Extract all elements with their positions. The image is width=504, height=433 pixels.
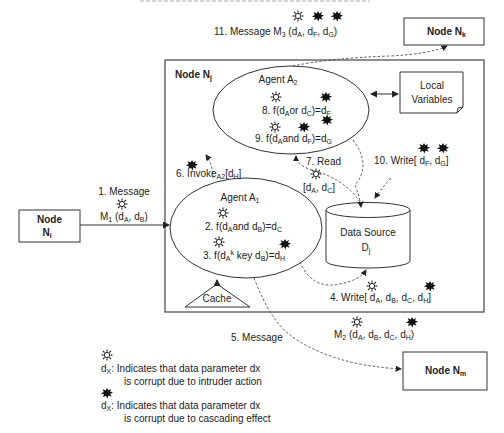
step-3-text: 3. f(dAk key dB)=dH xyxy=(203,249,285,262)
edge-5-message xyxy=(254,278,401,369)
intruder-icon xyxy=(271,92,282,103)
local-variables-label-2: Variables xyxy=(412,94,453,105)
data-source-label: Data Source xyxy=(340,227,396,238)
local-variables-box xyxy=(400,72,463,113)
cache-label: Cache xyxy=(203,293,232,304)
intruder-icon xyxy=(102,350,113,361)
edge-7-label: 7. Read xyxy=(306,156,341,167)
intruder-icon xyxy=(293,11,304,22)
edge-11-label: 11. Message M3 (dA, dF, dG) xyxy=(214,26,337,38)
edge-10-write xyxy=(353,140,363,207)
diagram-canvas: Node Nj Node Ni Node Nk Node Nm Agent A2… xyxy=(0,0,504,433)
intruder-icon xyxy=(218,208,229,219)
intruder-icon xyxy=(367,281,378,292)
cascade-icon xyxy=(437,143,449,153)
step-9-text: 9. f(dAand dF)=dG xyxy=(255,133,332,145)
legend-item-intruder: dX: Indicates that data parameter dx xyxy=(101,363,260,375)
legend: dX: Indicates that data parameter dx is … xyxy=(101,350,271,425)
node-nk-label: Node Nk xyxy=(427,26,466,38)
intruder-icon xyxy=(117,199,128,210)
cascade-icon xyxy=(418,143,430,153)
cascade-icon xyxy=(406,317,418,327)
cascade-icon xyxy=(101,388,113,398)
legend-item-cascade-2: is corrupt due to cascading effect xyxy=(124,413,271,424)
intruder-icon xyxy=(270,122,281,133)
edge-11-message xyxy=(293,46,447,66)
step-2-text: 2. f(dAand dB)=dC xyxy=(205,221,282,233)
data-source-cylinder xyxy=(326,210,410,268)
node-nj-label: Node Nj xyxy=(175,69,212,82)
edge-1-label: 1. Message xyxy=(98,186,150,197)
cascade-icon xyxy=(312,11,324,21)
edge-5-label: 5. Message xyxy=(231,332,283,343)
local-variables-label: Local xyxy=(420,80,444,91)
intruder-icon xyxy=(352,317,363,328)
edge-10-label: 10. Write[ dF, dG] xyxy=(374,155,449,167)
cascade-icon xyxy=(424,281,436,291)
edge-1-message-label: M1 (dA, dB) xyxy=(100,211,148,223)
edge-6-label: 6. InvokeA2[dH] xyxy=(176,168,242,180)
intruder-icon xyxy=(311,169,322,180)
cascade-icon xyxy=(331,11,343,21)
step-8-text: 8. f(dAor dC)=dF xyxy=(262,105,331,117)
edge-7-data-label: [dA, dC] xyxy=(303,182,335,194)
node-ni-label: Node xyxy=(37,214,62,225)
legend-item-intruder-2: is corrupt due to intruder action xyxy=(124,376,262,387)
agent-a2-title: Agent A2 xyxy=(259,74,298,86)
agent-a1-title: Agent A1 xyxy=(221,192,260,204)
edge-5-message-label: M2 (dA, dB, dC, dH) xyxy=(334,329,414,341)
edge-4-label: 4. Write[ dA, dB, dC, dH] xyxy=(330,292,431,304)
intruder-icon xyxy=(214,237,225,248)
legend-item-cascade: dX: Indicates that data parameter dx xyxy=(101,400,260,412)
